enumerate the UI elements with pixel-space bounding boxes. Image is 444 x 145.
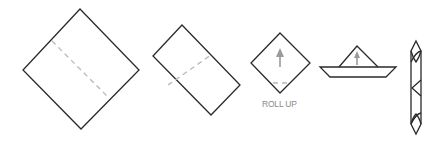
boat-hull <box>320 67 396 77</box>
rectangle-outline <box>153 25 240 115</box>
napkin-fold-diagram <box>0 0 444 145</box>
up-arrow-icon <box>276 48 284 67</box>
step-3-small-diamond <box>251 33 310 93</box>
step-2-rectangle <box>153 25 240 115</box>
square-outline <box>23 9 139 129</box>
step-4-boat <box>320 46 396 77</box>
step-1-square <box>23 9 139 129</box>
roll-up-label: ROLL UP <box>262 99 297 109</box>
middle-notch <box>412 80 421 96</box>
fold-line-dashed <box>168 55 211 85</box>
up-arrow-icon <box>354 51 360 65</box>
fold-line-dashed <box>52 41 107 96</box>
step-5-rolled-napkin <box>411 41 421 134</box>
